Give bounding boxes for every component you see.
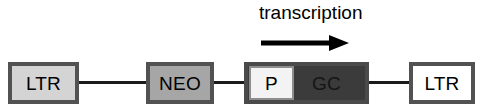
retroviral-vector-diagram: transcription LTR NEO P GC LTR: [0, 0, 483, 111]
gene-box-neo: NEO: [146, 62, 214, 104]
right-arrow-icon: [261, 33, 349, 53]
gene-box-label: LTR: [424, 74, 459, 93]
gene-box-label: NEO: [159, 74, 201, 93]
gene-box-label: GC: [312, 74, 341, 93]
gene-box-ltr-right: LTR: [409, 62, 475, 104]
transcription-label: transcription: [259, 2, 399, 24]
gene-box-ltr-left: LTR: [8, 62, 79, 104]
promoter-subbox: P: [249, 66, 294, 100]
gene-box-label: LTR: [26, 74, 61, 93]
vector-backbone-line: [12, 81, 472, 84]
promoter-label: P: [265, 74, 278, 93]
gene-box-cassette: P GC: [244, 62, 369, 104]
gc-region: GC: [294, 66, 365, 100]
